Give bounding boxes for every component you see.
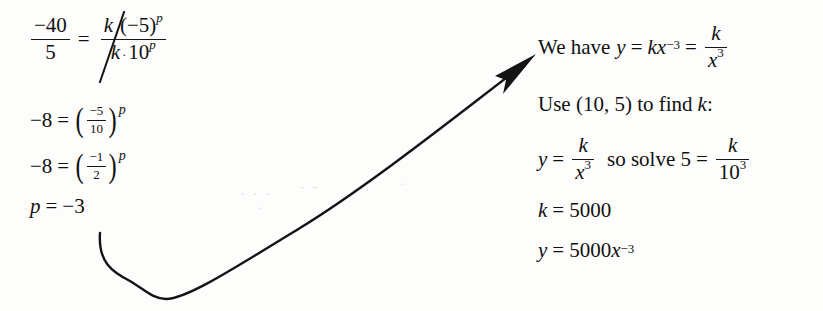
- variable-y: y: [616, 37, 625, 58]
- left-paren: (: [76, 108, 84, 132]
- equation-line-2: −8 = ( −5 10 ) p: [30, 104, 126, 136]
- denominator-base: 10: [128, 40, 149, 64]
- colon: :: [707, 94, 713, 115]
- variable-x: x: [611, 240, 620, 261]
- numerator-k: k: [104, 13, 113, 37]
- denominator: k·10p: [108, 41, 159, 65]
- arrowhead-icon: [495, 54, 536, 94]
- statement-line-2: Use (10, 5) to find k :: [538, 94, 713, 115]
- equation-line-3: −8 = ( −1 2 ) p: [30, 150, 126, 182]
- variable-p: p: [30, 196, 41, 217]
- left-side-value: −8: [30, 110, 52, 131]
- connector-text: so solve 5: [607, 149, 691, 170]
- instruction-text: Use (10, 5) to find: [538, 94, 693, 115]
- numerator: −1: [87, 150, 107, 165]
- scan-artifact: · ·: [352, 182, 372, 199]
- denominator-base: x: [575, 160, 584, 184]
- denominator-base: 10: [719, 160, 740, 184]
- denominator: 10: [87, 122, 106, 137]
- expression-kx: kx: [648, 37, 667, 58]
- scan-artifact: ·: [400, 176, 407, 193]
- variable-k: k: [698, 94, 707, 115]
- value: −3: [62, 196, 84, 217]
- left-paren: (: [76, 154, 84, 178]
- equals-sign: =: [57, 156, 69, 177]
- parenthesized-fraction: ( −5 10 ): [74, 104, 119, 136]
- denominator: 2: [90, 168, 103, 183]
- fraction-k-over-x-cubed: k x3: [705, 22, 727, 73]
- denominator: x3: [705, 49, 727, 73]
- left-side-value: −8: [30, 156, 52, 177]
- denominator-exponent: 3: [717, 45, 724, 60]
- numerator: k: [708, 22, 723, 46]
- numerator-base: (−5): [120, 13, 156, 37]
- scan-artifact: · · ·: [240, 186, 273, 203]
- numerator: −40: [31, 14, 70, 38]
- numerator: k: [725, 134, 740, 158]
- equation-line-4-result: p = −3: [30, 196, 85, 217]
- right-paren: ): [109, 108, 117, 132]
- numerator: k(−5)p: [101, 14, 166, 38]
- equals-sign: =: [57, 110, 69, 131]
- statement-line-5-final-answer: y = 5000x−3: [538, 240, 634, 261]
- right-paren: ): [109, 154, 117, 178]
- fraction-minus40-over-5: −40 5: [31, 14, 70, 65]
- equals-sign: =: [696, 149, 708, 170]
- denominator: 5: [42, 41, 59, 65]
- value: 5000: [569, 200, 611, 221]
- curved-arrow-path: [100, 72, 514, 299]
- numerator-exponent: p: [156, 10, 163, 25]
- denominator: x3: [572, 161, 594, 185]
- fraction-neg1-over-2: −1 2: [87, 150, 107, 182]
- equals-sign: =: [685, 37, 697, 58]
- numerator: k: [575, 134, 590, 158]
- denominator-k: k: [111, 40, 120, 64]
- fraction-k-over-10-cubed: k 103: [716, 134, 750, 185]
- equation-line-1: −40 5 = k(−5)p k·10p: [28, 14, 169, 65]
- statement-line-3: y = k x3 so solve 5 = k 103: [538, 134, 752, 185]
- denominator-base: x: [708, 48, 717, 72]
- scan-artifact: ·: [258, 200, 265, 217]
- scanned-math-solution-page: · · · ‑ ‑ · · · · −40 5 = k(−5)p k·10p −…: [0, 0, 823, 311]
- statement-line-1: We have y = kx−3 = k x3: [538, 22, 730, 73]
- prefix-text: We have: [538, 37, 610, 58]
- denominator: 103: [716, 161, 750, 185]
- statement-line-4-k-value: k = 5000: [538, 200, 611, 221]
- variable-k: k: [538, 200, 547, 221]
- fraction-k-over-x-cubed: k x3: [572, 134, 594, 185]
- fraction-k-neg5-over-k-10: k(−5)p k·10p: [101, 14, 166, 65]
- equals-sign: =: [552, 149, 564, 170]
- variable-y: y: [538, 240, 547, 261]
- variable-y: y: [538, 149, 547, 170]
- denominator-exponent: 3: [585, 157, 592, 172]
- coefficient: 5000: [569, 240, 611, 261]
- parenthesized-fraction: ( −1 2 ): [74, 150, 119, 182]
- equals-sign: =: [631, 37, 643, 58]
- equals-sign: =: [46, 196, 58, 217]
- denominator-exponent: 3: [740, 157, 747, 172]
- multiplication-dot: ·: [122, 47, 126, 62]
- equals-sign: =: [552, 240, 564, 261]
- fraction-neg5-over-10: −5 10: [87, 104, 107, 136]
- numerator: −5: [87, 104, 107, 119]
- equals-sign: =: [78, 29, 90, 50]
- denominator-exponent: p: [149, 37, 156, 52]
- equals-sign: =: [552, 200, 564, 221]
- scan-artifact: ‑ ‑: [300, 178, 320, 195]
